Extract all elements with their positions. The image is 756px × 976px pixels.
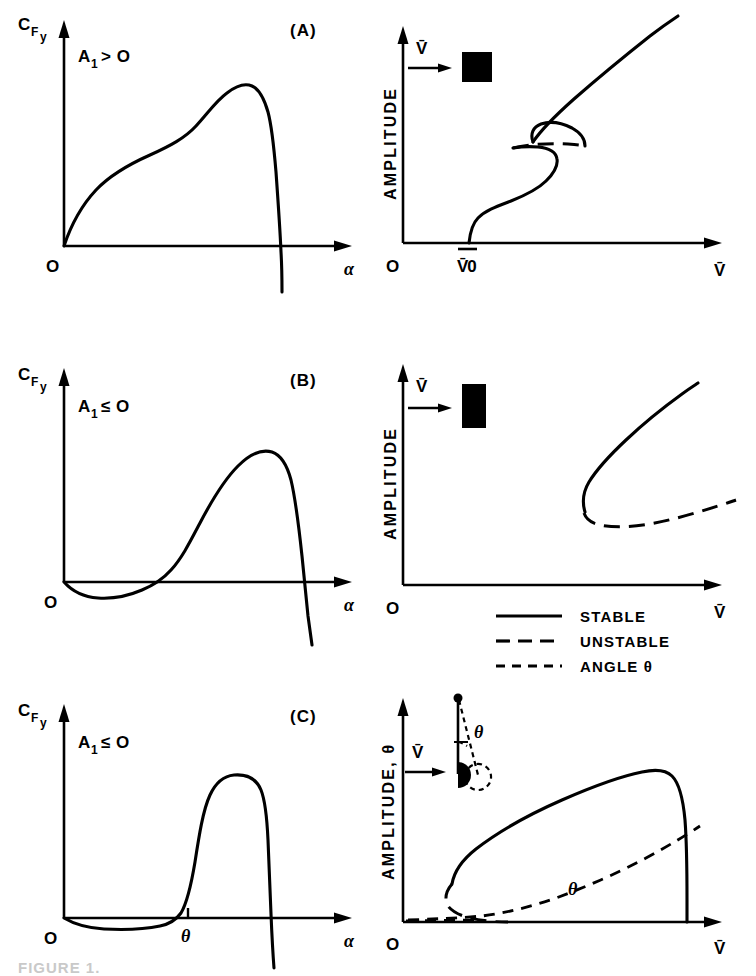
icon-angle-label: θ bbox=[474, 722, 484, 742]
rectangular-section-body bbox=[462, 384, 486, 428]
condition-relation: ≤ O bbox=[101, 733, 130, 752]
condition-annotation: A 1 ≤ O bbox=[78, 397, 130, 421]
panel-tag-b: (B) bbox=[290, 371, 317, 390]
y-axis-label-sub: F bbox=[31, 711, 38, 725]
x-axis bbox=[64, 241, 352, 252]
angle-theta-curve bbox=[408, 826, 700, 920]
panel-tag-a: (A) bbox=[290, 21, 317, 40]
legend-item-unstable: UNSTABLE bbox=[496, 633, 670, 650]
y-axis-label: C F y bbox=[18, 15, 47, 44]
condition-relation: > O bbox=[101, 47, 130, 66]
origin-label: O bbox=[44, 929, 58, 948]
y-axis-label-subsub: y bbox=[40, 30, 47, 44]
flow-body-icon-square: V̄ bbox=[408, 39, 492, 82]
condition-annotation: A 1 ≤ O bbox=[78, 733, 130, 757]
x-axis-label: V̄ bbox=[714, 939, 726, 958]
y-axis bbox=[398, 364, 409, 585]
origin-label: O bbox=[386, 599, 400, 618]
square-section-body bbox=[462, 52, 492, 82]
x-axis-label: α bbox=[344, 931, 355, 951]
y-axis-label: C F y bbox=[18, 365, 47, 394]
y-axis bbox=[59, 704, 70, 918]
y-axis bbox=[59, 368, 70, 582]
condition-subscript: 1 bbox=[91, 743, 98, 757]
flow-arrow-label: V̄ bbox=[412, 743, 424, 762]
x-axis bbox=[64, 913, 352, 924]
y-axis-label: AMPLITUDE, θ bbox=[380, 743, 397, 880]
panel-c-left-chart: C F y α O θ A 1 ≤ O (C) bbox=[0, 650, 378, 976]
unstable-branch bbox=[513, 144, 585, 148]
flow-arrow-label: V̄ bbox=[416, 39, 428, 58]
x-axis bbox=[403, 238, 722, 249]
panel-a-left-chart: C F y α O A 1 > O (A) bbox=[0, 0, 378, 320]
stable-loop-branch bbox=[452, 770, 687, 922]
flow-arrow-label: V̄ bbox=[416, 377, 428, 396]
origin-label: O bbox=[44, 593, 58, 612]
condition-symbol: A bbox=[78, 47, 91, 66]
y-axis-label: C F y bbox=[18, 701, 47, 730]
y-axis-label-subsub: y bbox=[40, 716, 47, 730]
force-coefficient-curve bbox=[64, 451, 312, 645]
y-axis-label: AMPLITUDE bbox=[382, 87, 399, 200]
condition-annotation: A 1 > O bbox=[78, 47, 130, 71]
x-axis-label: α bbox=[344, 259, 355, 279]
force-coefficient-curve bbox=[64, 85, 282, 292]
critical-velocity-label: V̄0 bbox=[457, 249, 477, 276]
figure-caption: FIGURE 1. bbox=[18, 959, 100, 976]
legend-item-stable: STABLE bbox=[496, 608, 646, 625]
panel-b-left-chart: C F y α O A 1 ≤ O (B) bbox=[0, 320, 378, 650]
y-axis bbox=[398, 698, 409, 922]
condition-symbol: A bbox=[78, 733, 91, 752]
panel-a-right-chart: AMPLITUDE V̄ O V̄0 V̄ bbox=[378, 0, 756, 320]
theta-curve-label: θ bbox=[568, 879, 578, 899]
legend-label-unstable: UNSTABLE bbox=[580, 633, 670, 650]
figure-galloping-response: C F y α O A 1 > O (A) bbox=[0, 0, 756, 976]
condition-relation: ≤ O bbox=[101, 397, 130, 416]
unstable-branch bbox=[584, 500, 736, 527]
svg-text:V̄0: V̄0 bbox=[457, 257, 476, 276]
flow-body-icon-pendulum: V̄ θ bbox=[405, 694, 491, 791]
y-axis-label-sub: F bbox=[31, 25, 38, 39]
x-axis bbox=[403, 580, 722, 591]
x-axis-label: α bbox=[344, 595, 355, 615]
stable-lower-branch bbox=[469, 147, 557, 243]
y-axis-label-main: C bbox=[18, 365, 31, 384]
stable-branch bbox=[583, 383, 698, 512]
condition-symbol: A bbox=[78, 397, 91, 416]
y-axis-label-main: C bbox=[18, 15, 31, 34]
panel-tag-c: (C) bbox=[290, 707, 317, 726]
condition-subscript: 1 bbox=[91, 407, 98, 421]
flow-body-icon-rectangle: V̄ bbox=[408, 377, 486, 428]
theta-tick-label: θ bbox=[181, 926, 191, 946]
svg-text:V̄: V̄ bbox=[714, 261, 726, 280]
y-axis bbox=[59, 20, 70, 246]
y-axis-label-sub: F bbox=[31, 375, 38, 389]
x-axis-label: V̄ bbox=[714, 261, 726, 280]
origin-label: O bbox=[386, 935, 400, 954]
y-axis bbox=[398, 26, 409, 243]
unstable-loop-branch bbox=[446, 884, 508, 922]
condition-subscript: 1 bbox=[91, 57, 98, 71]
force-coefficient-curve bbox=[64, 775, 274, 968]
origin-label: O bbox=[386, 257, 400, 276]
y-axis-label: AMPLITUDE bbox=[382, 427, 399, 540]
y-axis-label-main: C bbox=[18, 701, 31, 720]
y-axis-label-subsub: y bbox=[40, 380, 47, 394]
origin-label: O bbox=[46, 257, 60, 276]
panel-c-right-chart: AMPLITUDE, θ V̄ O θ V̄ bbox=[378, 650, 756, 976]
theta-tick: θ bbox=[181, 908, 191, 946]
legend-label-stable: STABLE bbox=[580, 608, 646, 625]
x-axis bbox=[64, 577, 352, 588]
